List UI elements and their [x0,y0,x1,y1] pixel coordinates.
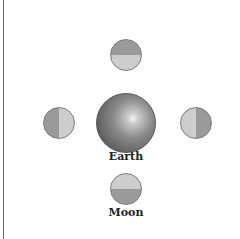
moon-left [43,107,75,139]
moon-top [110,39,142,71]
moon-label: Moon [96,206,156,219]
moon-bottom [110,173,142,205]
moon-phases-diagram: Earth Moon [0,0,240,239]
earth-globe [96,93,156,153]
earth-label: Earth [96,150,156,163]
left-border [3,0,4,239]
moon-right [180,107,212,139]
